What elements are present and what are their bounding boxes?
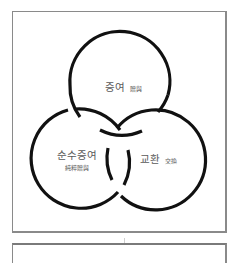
label-pure-gift: 순수증여 純粹贈與 — [57, 150, 97, 171]
label-gift-ko: 증여 — [105, 81, 125, 93]
label-pure-gift-hanja: 純粹贈與 — [57, 165, 97, 171]
label-exchange: 교환 交換 — [140, 150, 177, 166]
next-frame — [12, 243, 227, 263]
label-gift-hanja: 贈與 — [130, 85, 142, 92]
label-exchange-hanja: 交換 — [165, 157, 177, 164]
label-pure-gift-ko: 순수증여 — [57, 150, 97, 161]
label-exchange-ko: 교환 — [140, 153, 160, 165]
label-gift: 증여 贈與 — [105, 78, 142, 94]
